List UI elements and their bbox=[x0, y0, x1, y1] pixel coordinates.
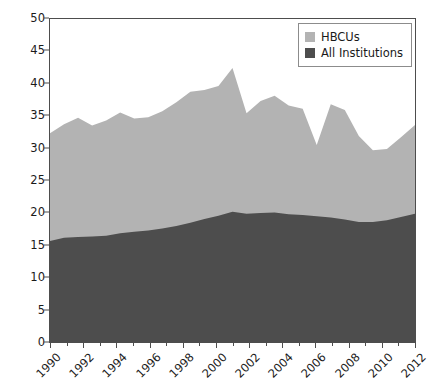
x-tick-mark-major bbox=[382, 343, 383, 348]
y-tick-label: 30 bbox=[3, 141, 45, 155]
x-tick-mark-major bbox=[415, 343, 416, 348]
x-tick-label: 1996 bbox=[133, 350, 164, 381]
y-tick-label: 5 bbox=[3, 303, 45, 317]
y-tick-label: 50 bbox=[3, 11, 45, 25]
axis-line-right bbox=[415, 18, 416, 343]
y-tick-label: 45 bbox=[3, 43, 45, 57]
x-tick-mark-major bbox=[83, 343, 84, 348]
x-tick-mark-major bbox=[282, 343, 283, 348]
x-tick-label: 2002 bbox=[232, 350, 263, 381]
x-tick-mark-minor bbox=[299, 343, 300, 346]
x-tick-mark-minor bbox=[133, 343, 134, 346]
x-tick-mark-minor bbox=[398, 343, 399, 346]
x-tick-mark-major bbox=[183, 343, 184, 348]
legend-label-hbcus: HBCUs bbox=[321, 30, 360, 44]
x-tick-mark-minor bbox=[199, 343, 200, 346]
x-tick-label: 2000 bbox=[199, 350, 230, 381]
x-tick-mark-major bbox=[50, 343, 51, 348]
x-tick-label: 2004 bbox=[266, 350, 297, 381]
y-tick-label: 20 bbox=[3, 205, 45, 219]
x-tick-mark-major bbox=[116, 343, 117, 348]
axis-line-top bbox=[50, 18, 416, 19]
x-tick-mark-minor bbox=[100, 343, 101, 346]
x-tick-mark-major bbox=[249, 343, 250, 348]
x-tick-mark-minor bbox=[233, 343, 234, 346]
x-tick-label: 2008 bbox=[332, 350, 363, 381]
y-tick-label: 0 bbox=[3, 335, 45, 349]
legend-label-all-institutions: All Institutions bbox=[321, 46, 403, 60]
x-tick-mark-major bbox=[216, 343, 217, 348]
y-tick-label: 25 bbox=[3, 173, 45, 187]
x-tick-mark-minor bbox=[166, 343, 167, 346]
x-tick-mark-major bbox=[315, 343, 316, 348]
y-tick-label: 15 bbox=[3, 238, 45, 252]
y-tick-label: 35 bbox=[3, 108, 45, 122]
legend-item-all-institutions: All Institutions bbox=[305, 45, 403, 61]
x-tick-mark-major bbox=[150, 343, 151, 348]
x-tick-label: 1994 bbox=[100, 350, 131, 381]
x-tick-mark-minor bbox=[266, 343, 267, 346]
chart-figure: Percent 05101520253035404550 19901992199… bbox=[0, 0, 431, 385]
x-tick-label: 2010 bbox=[365, 350, 396, 381]
y-tick-label: 10 bbox=[3, 270, 45, 284]
x-tick-mark-minor bbox=[332, 343, 333, 346]
legend-swatch-hbcus bbox=[305, 32, 315, 42]
x-tick-label: 1998 bbox=[166, 350, 197, 381]
chart-legend: HBCUs All Institutions bbox=[298, 23, 412, 67]
y-axis-tick-group: 05101520253035404550 bbox=[0, 0, 45, 385]
x-tick-label: 1992 bbox=[66, 350, 97, 381]
axis-line-left bbox=[49, 18, 50, 343]
x-tick-mark-major bbox=[349, 343, 350, 348]
legend-item-hbcus: HBCUs bbox=[305, 29, 403, 45]
y-tick-label: 40 bbox=[3, 76, 45, 90]
x-tick-label: 2012 bbox=[398, 350, 429, 381]
x-tick-mark-minor bbox=[365, 343, 366, 346]
x-tick-label: 2006 bbox=[299, 350, 330, 381]
legend-swatch-all-institutions bbox=[305, 48, 315, 58]
x-tick-mark-minor bbox=[67, 343, 68, 346]
